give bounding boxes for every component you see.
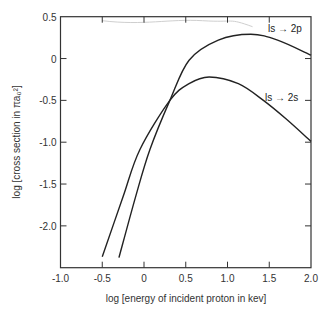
curve-1s-2p bbox=[119, 34, 311, 257]
x-tick-label: 0 bbox=[141, 273, 147, 284]
axis-ticks bbox=[61, 17, 312, 268]
y-tick-label: -1.0 bbox=[39, 137, 57, 148]
x-tick-label: 2.0 bbox=[304, 273, 318, 284]
y-tick-label: -2.0 bbox=[39, 221, 57, 232]
x-tick-label: -0.5 bbox=[94, 273, 112, 284]
x-tick-label: 0.5 bbox=[179, 273, 193, 284]
y-tick-label: 0 bbox=[51, 54, 57, 65]
bleed-through-line bbox=[102, 20, 252, 26]
x-tick-label: -1.0 bbox=[52, 273, 70, 284]
y-tick-label: 0.5 bbox=[43, 12, 57, 23]
series-label-2p: ls → 2p bbox=[268, 23, 302, 34]
x-tick-label: 1.5 bbox=[262, 273, 276, 284]
y-tick-label: -1.5 bbox=[39, 179, 57, 190]
curve-1s-2s bbox=[102, 77, 311, 257]
plot-frame bbox=[61, 17, 312, 268]
series-curves bbox=[102, 34, 311, 257]
x-tick-label: 1.0 bbox=[221, 273, 235, 284]
cross-section-chart: -1.0-0.500.51.01.52.0 0.50-0.5-1.0-1.5-2… bbox=[0, 0, 331, 315]
y-tick-labels: 0.50-0.5-1.0-1.5-2.0 bbox=[39, 12, 57, 232]
y-axis-label: log [cross section in πa₀²] bbox=[11, 85, 22, 199]
x-tick-labels: -1.0-0.500.51.01.52.0 bbox=[52, 273, 319, 284]
x-axis-label: log [energy of incident proton in kev] bbox=[106, 293, 267, 304]
y-tick-label: -0.5 bbox=[39, 95, 57, 106]
series-label-2s: ls → 2s bbox=[265, 92, 298, 103]
